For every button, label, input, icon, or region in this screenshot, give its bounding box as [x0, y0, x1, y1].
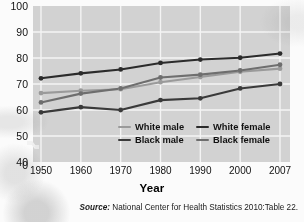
- legend-label: White female: [213, 122, 270, 132]
- legend-swatch-icon: [118, 126, 131, 129]
- chart-legend: White male White female Black male Black…: [118, 122, 270, 145]
- legend-label: Black male: [135, 135, 184, 145]
- data-point: [78, 91, 83, 96]
- data-point: [198, 72, 203, 77]
- legend-item-white-male: White male: [118, 122, 184, 132]
- data-point: [238, 68, 243, 73]
- y-axis-tick-label: 90: [16, 26, 28, 38]
- data-point: [39, 76, 44, 81]
- x-axis-tick-label: 1960: [70, 165, 92, 176]
- data-point: [78, 105, 83, 110]
- legend-label: Black female: [213, 135, 270, 145]
- data-point: [278, 82, 283, 87]
- x-axis-tick-label: 1950: [30, 165, 52, 176]
- legend-swatch-icon: [118, 139, 131, 142]
- data-point: [39, 110, 44, 115]
- data-point: [158, 61, 163, 66]
- x-axis-tick-label: 1990: [189, 165, 211, 176]
- y-axis-tick-label: 0: [22, 159, 28, 171]
- data-point: [198, 96, 203, 101]
- data-point: [278, 62, 283, 67]
- data-point: [238, 55, 243, 60]
- x-axis-title: Year: [0, 182, 304, 194]
- y-axis-tick-label: 70: [16, 78, 28, 90]
- legend-label: White male: [135, 122, 184, 132]
- y-axis-tick-label: 80: [16, 52, 28, 64]
- data-point: [118, 86, 123, 91]
- legend-item-white-female: White female: [196, 122, 270, 132]
- data-point: [278, 51, 283, 56]
- legend-swatch-icon: [196, 126, 209, 129]
- source-text: National Center for Health Statistics 20…: [112, 203, 298, 212]
- data-point: [158, 75, 163, 80]
- source-label: Source:: [80, 203, 110, 212]
- data-point: [118, 67, 123, 72]
- chart-figure: 1009080706050400 19501960197019801990200…: [0, 0, 304, 222]
- y-axis-tick-label: 60: [16, 104, 28, 116]
- x-axis-tick-label: 1980: [149, 165, 171, 176]
- axis-break-icon: [27, 140, 39, 149]
- data-point: [118, 108, 123, 113]
- x-axis-tick-label: 2007: [269, 165, 291, 176]
- legend-swatch-icon: [196, 139, 209, 142]
- source-note: Source: National Center for Health Stati…: [0, 203, 298, 212]
- x-axis-tick-label: 1970: [110, 165, 132, 176]
- data-point: [78, 71, 83, 76]
- y-axis-tick-label: 100: [10, 0, 28, 12]
- data-point: [198, 57, 203, 62]
- data-point: [238, 86, 243, 91]
- data-point: [39, 91, 44, 96]
- legend-item-black-male: Black male: [118, 135, 184, 145]
- x-axis-tick-label: 2000: [229, 165, 251, 176]
- data-point: [158, 80, 163, 85]
- data-point: [158, 98, 163, 103]
- legend-item-black-female: Black female: [196, 135, 270, 145]
- data-point: [39, 100, 44, 105]
